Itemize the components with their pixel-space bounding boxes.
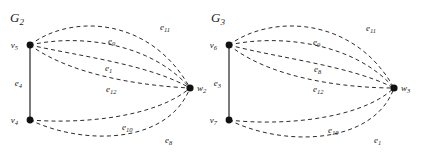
node-g3-v7 xyxy=(226,117,233,124)
edge-label-g2-e4: e4 xyxy=(15,78,23,89)
node-label-g2-w2: w2 xyxy=(197,83,207,94)
edge-label-g3-e10: e10 xyxy=(328,125,339,136)
edge-label-g3-e8: e8 xyxy=(314,64,322,75)
edge-label-g2-e1: e1 xyxy=(105,63,112,74)
node-g2-v4 xyxy=(27,117,34,124)
node-label-g3-v6: v6 xyxy=(210,40,218,51)
edge-label-g3-e12: e12 xyxy=(313,84,324,95)
edge-g3-e9 xyxy=(229,41,394,88)
edge-g3-e1 xyxy=(229,88,394,137)
edge-label-g2-e9: e9 xyxy=(108,36,116,47)
node-g3-v6 xyxy=(226,42,233,49)
node-g2-w2 xyxy=(186,84,193,91)
node-label-g3-v7: v7 xyxy=(210,115,218,126)
edge-g3-e11 xyxy=(229,26,394,88)
figure-canvas: G2 v5 v4 w2 e4 e11 e9 e1 e12 xyxy=(0,0,427,155)
edge-g2-e8 xyxy=(30,88,190,136)
edge-label-g2-e11: e11 xyxy=(160,22,170,33)
edge-label-g2-e10: e10 xyxy=(122,122,133,133)
graph-diagram-svg: G2 v5 v4 w2 e4 e11 e9 e1 e12 xyxy=(0,0,427,155)
node-g3-w3 xyxy=(390,84,397,91)
graph-g3: G3 v6 v7 w3 e3 e11 e9 e8 e12 xyxy=(210,10,411,146)
graph-g3-title: G3 xyxy=(211,10,225,27)
edge-label-g2-e8: e8 xyxy=(165,135,173,146)
node-label-g2-v4: v4 xyxy=(11,115,19,126)
edge-label-g3-e3: e3 xyxy=(214,78,222,89)
graph-g2: G2 v5 v4 w2 e4 e11 e9 e1 e12 xyxy=(10,10,207,146)
node-label-g2-v5: v5 xyxy=(11,40,19,51)
edge-g2-e9 xyxy=(30,41,190,88)
graph-g2-title: G2 xyxy=(10,10,24,27)
node-label-g3-w3: w3 xyxy=(401,83,411,94)
node-g2-v5 xyxy=(27,42,34,49)
edge-g3-e10 xyxy=(229,88,394,122)
edge-label-g3-e1: e1 xyxy=(374,135,381,146)
edge-label-g2-e12: e12 xyxy=(106,84,117,95)
edge-label-g3-e11: e11 xyxy=(366,23,376,34)
edge-label-g3-e9: e9 xyxy=(313,37,321,48)
